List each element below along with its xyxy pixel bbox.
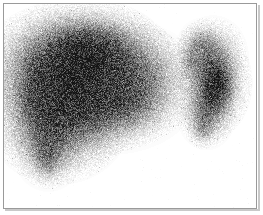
scan-viewport: Liver-spleen colloid scan Anterior [0, 0, 263, 215]
scan-frame [3, 3, 257, 209]
scan-study-label: Liver-spleen colloid scan [0, 0, 1, 1]
frame-shadow-right [258, 5, 260, 210]
scan-view-label: Anterior [0, 0, 1, 1]
frame-shadow-bottom [5, 209, 260, 211]
scintigram-image [4, 4, 257, 209]
